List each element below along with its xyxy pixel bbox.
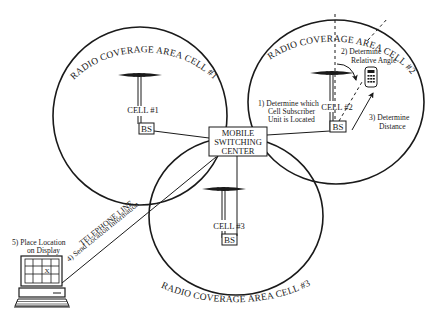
base-station-cell-2: BS [330, 121, 346, 132]
location-marker: X [44, 267, 49, 275]
base-station-cell-3: BS [222, 234, 237, 245]
mobile-phone-icon [365, 67, 377, 87]
step-2-line-1: 2) Determine [341, 47, 382, 56]
cell-2-label: CELL #2 [321, 102, 353, 112]
step-1-note: 1) Determine which Cell Subscriber Unit … [258, 99, 319, 124]
step-5-note: 5) Place Location on Display [12, 238, 66, 255]
base-station-label: BS [141, 124, 152, 134]
coverage-circle-cell-3 [149, 137, 323, 295]
link-bs2-msc [267, 131, 330, 135]
base-station-label: BS [224, 235, 235, 245]
step-4-note: 4) Send Location Information [65, 199, 141, 263]
bearing-dashed-extension [368, 18, 388, 40]
antenna-icon [310, 71, 354, 75]
step-3-line-2: Distance [379, 122, 406, 131]
cell-1-tower [118, 73, 162, 124]
mobile-switching-center: MOBILE SWITCHING CENTER [209, 127, 267, 156]
step-5-line-2: on Display [27, 246, 60, 255]
link-bs1-msc [154, 131, 209, 138]
base-station-label: BS [332, 122, 343, 132]
msc-line-3: CENTER [221, 146, 254, 156]
base-station-cell-1: BS [139, 123, 154, 134]
distance-arrow [352, 93, 373, 130]
antenna-icon [202, 187, 246, 191]
step-1-line-3: Unit is Located [268, 115, 315, 124]
cellular-location-diagram: RADIO COVERAGE AREA CELL #1 RADIO COVERA… [0, 0, 428, 311]
step-2-line-2: Relative Angle [351, 56, 397, 65]
cell-1-label: CELL #1 [127, 105, 159, 115]
telephone-line [62, 157, 216, 283]
coverage-label-cell-3: RADIO COVERAGE AREA CELL #3 [160, 278, 312, 304]
step-3-line-1: 3) Determine [369, 113, 410, 122]
cell-3-label: CELL #3 [213, 221, 245, 231]
step-3-note: 3) Determine Distance [369, 113, 410, 131]
antenna-icon [118, 73, 162, 77]
computer-display-icon: X [14, 256, 70, 307]
